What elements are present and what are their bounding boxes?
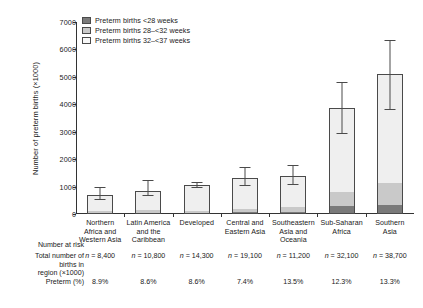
x-category-line: Eastern Asia bbox=[221, 228, 269, 237]
y-tick-label: 7000 bbox=[0, 18, 82, 27]
x-category-line: and the bbox=[124, 228, 172, 237]
table-cell: 8.9% bbox=[76, 278, 124, 287]
error-bar-cap-lower bbox=[240, 185, 251, 186]
table-cell: n = 8,400 bbox=[76, 252, 124, 261]
x-tick-mark bbox=[269, 213, 270, 217]
bar-group[interactable] bbox=[377, 22, 403, 214]
plot-area bbox=[76, 22, 414, 214]
bar-segment bbox=[377, 205, 403, 214]
x-category-line: Northern bbox=[76, 219, 124, 228]
error-bar-cap-upper bbox=[384, 40, 395, 41]
error-bar-line bbox=[245, 167, 246, 184]
error-bar-line bbox=[389, 40, 390, 109]
error-bar-cap-lower bbox=[191, 187, 202, 188]
x-category-label: SoutheasternAsia andOceania bbox=[269, 219, 317, 245]
stacked-bar[interactable] bbox=[184, 185, 210, 214]
x-category-label: Latin Americaand theCaribbean bbox=[124, 219, 172, 245]
preterm-births-chart: Number of preterm births (×1000) 0100020… bbox=[0, 0, 423, 308]
bar-segment bbox=[135, 213, 161, 214]
table-cell: n = 10,800 bbox=[124, 252, 172, 261]
x-tick-mark bbox=[124, 213, 125, 217]
x-category-line: Southern bbox=[366, 219, 414, 228]
bar-segment bbox=[232, 212, 258, 214]
x-tick-mark bbox=[366, 213, 367, 217]
x-category-line: Sub-Saharan bbox=[317, 219, 365, 228]
bar-group[interactable] bbox=[329, 22, 355, 214]
x-tick-mark bbox=[317, 213, 318, 217]
bar-segment bbox=[184, 213, 210, 214]
table-cell: n = 11,200 bbox=[269, 252, 317, 261]
bar-segment bbox=[184, 185, 210, 211]
x-category-line: Africa and bbox=[76, 228, 124, 237]
table-cell: n = 14,300 bbox=[173, 252, 221, 261]
y-tick-mark bbox=[73, 214, 77, 215]
table-cell: n = 38,700 bbox=[366, 252, 414, 261]
table-row-header: Total number of births in region (×1000) bbox=[0, 252, 84, 278]
table-cell: 8.6% bbox=[173, 278, 221, 287]
error-bar-cap-upper bbox=[240, 167, 251, 168]
x-category-line: Asia and bbox=[269, 228, 317, 237]
bar-group[interactable] bbox=[232, 22, 258, 214]
y-tick-label: 1000 bbox=[0, 182, 82, 191]
bar-segment bbox=[329, 192, 355, 207]
y-tick-label: 4000 bbox=[0, 100, 82, 109]
x-category-line: Caribbean bbox=[124, 236, 172, 245]
x-category-line: Asia bbox=[366, 228, 414, 237]
x-category-label: SouthernAsia bbox=[366, 219, 414, 236]
x-category-line: Latin America bbox=[124, 219, 172, 228]
bar-segment bbox=[329, 206, 355, 214]
x-category-line: Africa bbox=[317, 228, 365, 237]
bar-group[interactable] bbox=[135, 22, 161, 214]
table-cell: 7.4% bbox=[221, 278, 269, 287]
table-cell: 13.3% bbox=[366, 278, 414, 287]
y-tick-label: 3000 bbox=[0, 127, 82, 136]
y-tick-label: 2000 bbox=[0, 155, 82, 164]
table-cell: 13.5% bbox=[269, 278, 317, 287]
x-category-line: Central and bbox=[221, 219, 269, 228]
bar-group[interactable] bbox=[184, 22, 210, 214]
x-tick-mark bbox=[221, 213, 222, 217]
x-category-line: Southeastern bbox=[269, 219, 317, 228]
error-bar-cap-upper bbox=[95, 187, 106, 188]
error-bar-cap-lower bbox=[384, 109, 395, 110]
table-cell: n = 32,100 bbox=[317, 252, 365, 261]
table-cell: n = 19,100 bbox=[221, 252, 269, 261]
error-bar-cap-upper bbox=[191, 182, 202, 183]
table-row-header: Preterm (%) bbox=[0, 278, 84, 287]
error-bar-cap-upper bbox=[336, 82, 347, 83]
error-bar-cap-lower bbox=[336, 133, 347, 134]
bar-segment bbox=[280, 212, 306, 214]
bar-segment bbox=[87, 213, 113, 214]
x-tick-mark bbox=[173, 213, 174, 217]
error-bar-line bbox=[100, 187, 101, 199]
bar-group[interactable] bbox=[280, 22, 306, 214]
x-category-line: Oceania bbox=[269, 236, 317, 245]
x-category-label: Developed bbox=[173, 219, 221, 228]
error-bar-line bbox=[293, 165, 294, 184]
error-bar-cap-lower bbox=[288, 184, 299, 185]
x-category-line: Developed bbox=[173, 219, 221, 228]
error-bar-line bbox=[341, 82, 342, 133]
error-bar-cap-lower bbox=[95, 199, 106, 200]
y-tick-label: 5000 bbox=[0, 72, 82, 81]
error-bar-cap-upper bbox=[143, 180, 154, 181]
x-category-label: Central andEastern Asia bbox=[221, 219, 269, 236]
bar-segment bbox=[377, 183, 403, 205]
x-category-label: Sub-SaharanAfrica bbox=[317, 219, 365, 236]
number-at-risk-title: Number at risk bbox=[0, 241, 84, 249]
table-cell: 12.3% bbox=[317, 278, 365, 287]
bar-group[interactable] bbox=[87, 22, 113, 214]
error-bar-cap-lower bbox=[143, 195, 154, 196]
error-bar-line bbox=[148, 180, 149, 195]
y-tick-label: 0 bbox=[0, 210, 82, 219]
y-tick-label: 6000 bbox=[0, 45, 82, 54]
table-cell: 8.6% bbox=[124, 278, 172, 287]
error-bar-cap-upper bbox=[288, 165, 299, 166]
